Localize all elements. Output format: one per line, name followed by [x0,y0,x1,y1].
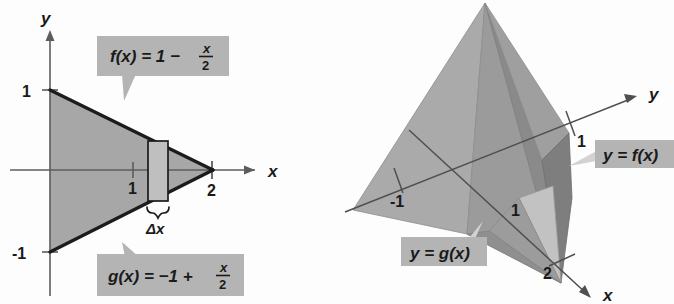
f-callout-pointer [122,74,136,101]
y-axis-3d-arrow [624,94,637,103]
y-axis-3d-label: y [648,85,660,104]
tick-label-3d-pos1-inner: 1 [511,202,520,219]
g-callout-frac-denominator: 2 [219,277,226,292]
representative-rectangle [148,141,168,201]
tick-label-3d-pos1-y: 1 [577,133,586,150]
figure-root: x y 1 2 1 -1 Δx f(x) = 1 − x 2 g(x [0,0,674,304]
shaded-region [50,90,212,252]
plane-region-svg: x y 1 2 1 -1 Δx f(x) = 1 − x 2 g(x [0,0,337,304]
f-surface-callout-text: y = f(x) [602,146,659,165]
x-axis-label: x [267,162,279,181]
panel-2d-region: x y 1 2 1 -1 Δx f(x) = 1 − x 2 g(x [0,0,337,304]
g-callout: g(x) = −1 + x 2 [97,242,244,296]
tick-label-3d-2: 2 [543,265,552,282]
g-surface-callout-text: y = g(x) [409,244,470,263]
x-axis-3d-arrow [579,285,591,298]
x-axis-3d-label: x [602,286,614,304]
solid-face-back-left [353,3,485,234]
panel-3d-solid: 1 -1 1 2 y x y = f(x) y = g(x) [337,0,674,304]
y-axis-label: y [40,9,52,28]
x-tick-label-2: 2 [207,182,216,199]
delta-x-label: Δx [145,220,165,237]
x-tick-label-1: 1 [128,180,137,197]
x-axis-arrow [244,166,255,175]
f-callout-text: f(x) = 1 − [110,47,180,66]
y-tick-label-neg1: -1 [12,245,26,262]
delta-x-brace [147,207,169,218]
f-callout: f(x) = 1 − x 2 [97,36,229,101]
f-callout-frac-denominator: 2 [202,58,209,73]
tick-label-3d-neg1: -1 [390,193,404,210]
solid-svg: 1 -1 1 2 y x y = f(x) y = g(x) [337,0,674,304]
g-callout-text: g(x) = −1 + [107,267,193,286]
f-callout-frac-numerator: x [202,41,211,56]
g-callout-frac-numerator: x [219,260,228,275]
y-axis-arrow [46,30,55,41]
y-tick-label-1: 1 [22,83,31,100]
